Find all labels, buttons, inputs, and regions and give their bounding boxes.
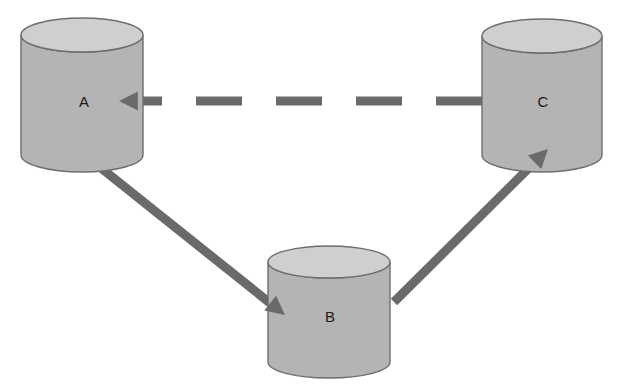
edge-b-to-c (394, 161, 536, 302)
edge-a-to-b (86, 156, 271, 304)
node-a-top-ellipse (21, 18, 143, 52)
edge-a-to-b-line (86, 156, 271, 304)
node-cylinder-b[interactable]: B (268, 246, 390, 378)
node-b-top-ellipse (268, 246, 390, 278)
node-cylinder-c[interactable]: C (482, 19, 602, 172)
diagram-svg: A B C (0, 0, 622, 391)
node-layer: A B C (21, 18, 602, 378)
node-c-label: C (538, 93, 549, 110)
node-cylinder-a[interactable]: A (21, 18, 143, 172)
diagram-canvas: A B C (0, 0, 622, 391)
edge-b-to-c-line (394, 161, 536, 302)
node-b-label: B (325, 308, 335, 325)
node-a-label: A (79, 93, 89, 110)
node-c-top-ellipse (482, 19, 602, 53)
